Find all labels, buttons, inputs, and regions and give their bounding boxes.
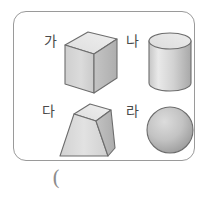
shape-cell-da[interactable]: 다 [32,98,120,172]
truncated-pyramid-icon [56,100,118,168]
answer-parenthesis: ( [52,168,60,189]
shape-label-ga: 가 [44,34,57,48]
shape-label-da: 다 [42,104,55,118]
shape-cell-ra[interactable]: 라 [120,98,208,172]
shape-cell-ga[interactable]: 가 [32,26,120,98]
rectangular-prism-icon [62,29,120,97]
sphere-icon [144,104,198,160]
shape-label-na: 나 [126,34,139,48]
shape-cell-na[interactable]: 나 [120,26,208,98]
worksheet-page: 가 [0,0,209,199]
cylinder-icon [144,29,196,97]
shape-collection-box: 가 [13,11,195,161]
shape-label-ra: 라 [126,104,139,118]
